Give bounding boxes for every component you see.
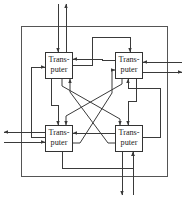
node-label-bottom-right-line1: Trans- xyxy=(118,128,139,137)
node-label-top-left-line1: Trans- xyxy=(48,55,69,64)
node-label-top-left-line2: puter xyxy=(51,65,68,74)
link-bl-tr xyxy=(73,70,115,143)
link-bl-tl xyxy=(31,67,45,137)
link-tl-bl xyxy=(51,79,58,125)
diagram-canvas: Trans- puter Trans- puter Trans- puter T… xyxy=(0,0,184,199)
transputer-network-figure: Trans- puter Trans- puter Trans- puter T… xyxy=(0,0,184,199)
link-tr-tl xyxy=(73,59,115,60)
node-label-bottom-right-line2: puter xyxy=(121,138,138,147)
node-transputer-bottom-left[interactable]: Trans- puter xyxy=(46,126,73,152)
link-tr-br xyxy=(128,79,136,125)
link-tr-bl xyxy=(66,79,122,125)
node-transputer-top-left[interactable]: Trans- puter xyxy=(46,53,73,79)
outer-frame xyxy=(22,27,168,177)
node-label-bottom-left-line2: puter xyxy=(51,138,68,147)
node-label-top-right-line1: Trans- xyxy=(118,55,139,64)
link-group-diagonal-b xyxy=(66,70,122,143)
node-transputer-top-right[interactable]: Trans- puter xyxy=(116,53,143,79)
node-transputer-bottom-right[interactable]: Trans- puter xyxy=(116,126,143,152)
node-label-bottom-left-line1: Trans- xyxy=(48,128,69,137)
node-label-top-right-line2: puter xyxy=(121,65,138,74)
